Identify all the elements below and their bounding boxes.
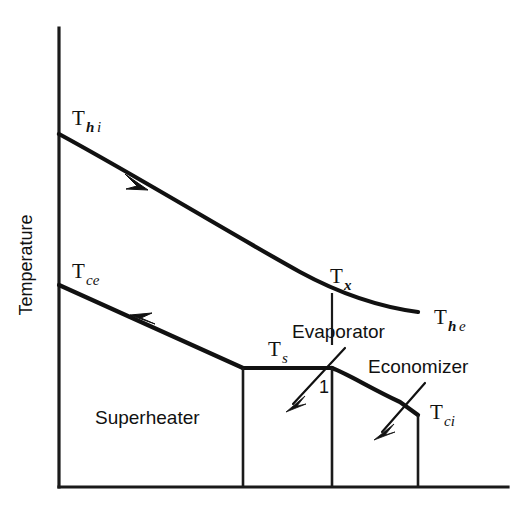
hot-stream-curve-group (59, 134, 418, 312)
section-label-evaporator: Evaporator (292, 321, 386, 342)
section-dividers-group (243, 368, 418, 487)
label-hot-exit-base: T (434, 305, 447, 329)
label-hot-exit-sub-h: h (448, 318, 456, 334)
temperature-profile-diagram: Temperature T h i T ce T x T h e T s (0, 0, 531, 515)
cold-stream-curve-group (59, 285, 418, 415)
label-cold-inlet-sub: ci (444, 413, 455, 429)
label-saturation-sub: s (282, 350, 288, 366)
label-hot-pinch-base: T (330, 264, 343, 288)
label-hot-inlet: T h i (72, 106, 101, 135)
label-hot-exit: T h e (434, 305, 466, 334)
label-saturation: T s (268, 337, 288, 366)
evaporator-leader-arrowhead (286, 396, 306, 412)
diagram-canvas: Temperature T h i T ce T x T h e T s (0, 0, 531, 515)
label-cold-exit-sub: ce (86, 272, 100, 288)
label-cold-inlet: T ci (430, 400, 455, 429)
economizer-leader-arrowhead (374, 424, 395, 440)
label-cold-inlet-base: T (430, 400, 443, 424)
hot-stream-curve (59, 134, 418, 312)
evaporator-leader-group (286, 348, 345, 412)
label-hot-pinch-sub: x (343, 277, 352, 293)
label-saturation-base: T (268, 337, 281, 361)
label-hot-inlet-base: T (72, 106, 85, 130)
label-cold-exit: T ce (72, 259, 100, 288)
label-cold-exit-base: T (72, 259, 85, 283)
label-hot-inlet-sub-h: h (86, 119, 94, 135)
cold-curve-superheater-segment (59, 285, 243, 368)
label-hot-inlet-sub-i: i (97, 119, 101, 135)
section-label-economizer: Economizer (368, 356, 469, 377)
state-point-1-label: 1 (319, 377, 329, 397)
y-axis-title-group: Temperature (16, 214, 36, 315)
y-axis-title: Temperature (16, 214, 36, 315)
section-label-superheater: Superheater (95, 407, 200, 428)
label-hot-exit-sub-e: e (459, 318, 466, 334)
